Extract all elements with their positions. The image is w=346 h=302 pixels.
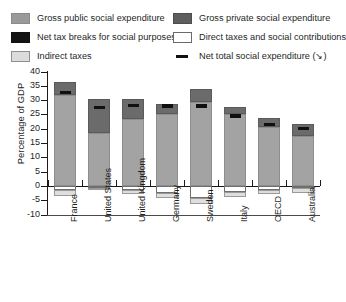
legend-label-taxbreak: Net tax breaks for social purposes — [37, 32, 176, 43]
y-tick — [41, 172, 47, 173]
bar-segment-private[interactable] — [292, 124, 314, 135]
y-tick-label: 15 — [0, 137, 40, 147]
net-total-marker — [128, 104, 139, 107]
x-tick — [116, 180, 117, 186]
x-tick — [286, 180, 287, 186]
y-tick-label: 30 — [0, 94, 40, 104]
y-tick-label: 35 — [0, 80, 40, 90]
legend-item-direct: Direct taxes and social contributions — [173, 29, 346, 45]
bar-segment-public[interactable] — [292, 136, 314, 186]
bar-segment-indirect-taxes[interactable] — [224, 192, 246, 197]
legend-row: Indirect taxes Net total social expendit… — [8, 48, 330, 64]
legend-item-nettotal: Net total social expenditure (↘) — [173, 48, 327, 64]
legend-item-public: Gross public social expenditure — [11, 10, 165, 26]
legend-label-public: Gross public social expenditure — [37, 13, 165, 24]
zero-baseline — [47, 186, 320, 187]
y-tick — [41, 100, 47, 101]
bar-segment-private[interactable] — [156, 104, 178, 115]
y-tick-label: -10 — [0, 209, 40, 219]
bar-segment-public[interactable] — [54, 95, 76, 186]
y-tick-label: 0 — [0, 180, 40, 190]
bar-segment-private[interactable] — [54, 82, 76, 95]
legend-label-private: Gross private social expenditure — [199, 13, 330, 24]
net-total-marker — [94, 106, 105, 109]
bar-segment-direct-taxes[interactable] — [224, 186, 246, 192]
legend-row: Gross public social expenditure Gross pr… — [8, 10, 330, 26]
y-tick — [41, 72, 47, 73]
bar-segment-private[interactable] — [258, 118, 280, 127]
legend-label-nettotal: Net total social expenditure (↘) — [199, 51, 327, 62]
y-tick — [41, 86, 47, 87]
bar-segment-private[interactable] — [88, 99, 110, 134]
y-tick — [41, 215, 47, 216]
net-total-marker — [298, 127, 309, 130]
legend-item-indirect: Indirect taxes — [11, 48, 92, 64]
y-tick — [41, 186, 47, 187]
x-tick — [320, 180, 321, 186]
axes: -10-50510152025303540 FranceUnited State… — [0, 66, 337, 302]
y-tick — [41, 200, 47, 201]
x-tick — [252, 180, 253, 186]
net-total-marker — [196, 104, 207, 107]
y-tick-label: 40 — [0, 66, 40, 76]
y-tick-label: 5 — [0, 166, 40, 176]
legend-row: Net tax breaks for social purposes Direc… — [8, 29, 330, 45]
bar-segment-indirect-taxes[interactable] — [258, 190, 280, 194]
bar-segment-private[interactable] — [122, 99, 144, 119]
y-tick — [41, 157, 47, 158]
y-tick — [41, 114, 47, 115]
legend-swatch-private-icon — [173, 13, 192, 24]
x-axis-category-label: Germany — [171, 185, 181, 222]
y-tick-label: -5 — [0, 194, 40, 204]
bar-segment-public[interactable] — [190, 102, 212, 186]
net-total-marker — [264, 123, 275, 126]
y-axis-line — [47, 71, 48, 215]
legend-label-indirect: Indirect taxes — [37, 51, 92, 62]
net-total-marker — [230, 114, 241, 117]
bar-segment-private[interactable] — [190, 89, 212, 102]
chart-legend: Gross public social expenditure Gross pr… — [8, 8, 330, 66]
x-axis-category-label: United Kingdom — [137, 158, 147, 222]
y-tick — [41, 129, 47, 130]
bar-segment-private[interactable] — [224, 107, 246, 115]
x-tick — [218, 180, 219, 186]
legend-item-taxbreak: Net tax breaks for social purposes — [11, 29, 176, 45]
bar-segment-public[interactable] — [224, 114, 246, 186]
net-total-marker — [162, 104, 173, 107]
y-tick-label: 20 — [0, 123, 40, 133]
x-tick — [150, 180, 151, 186]
legend-swatch-taxbreak-icon — [11, 32, 30, 43]
y-tick-label: 25 — [0, 108, 40, 118]
y-tick — [41, 143, 47, 144]
legend-item-private: Gross private social expenditure — [173, 10, 330, 26]
x-axis-category-label: Italy — [239, 205, 249, 222]
y-tick-label: 10 — [0, 151, 40, 161]
x-axis-category-label: Australia — [307, 187, 317, 222]
plot-area: Percentage of GDP -10-50510152025303540 … — [0, 66, 337, 302]
x-tick — [82, 180, 83, 186]
bar-segment-public[interactable] — [156, 114, 178, 186]
net-total-marker — [60, 91, 71, 94]
legend-swatch-indirect-icon — [11, 51, 30, 62]
legend-swatch-public-icon — [11, 13, 30, 24]
x-tick — [48, 180, 49, 186]
legend-swatch-direct-icon — [173, 32, 192, 43]
x-axis-category-label: OECD — [273, 196, 283, 222]
legend-dash-nettotal-icon — [173, 51, 192, 62]
bar-segment-public[interactable] — [258, 127, 280, 186]
x-axis-category-label: France — [69, 194, 79, 222]
x-tick — [184, 180, 185, 186]
x-axis-category-label: Sweden — [205, 189, 215, 222]
legend-label-direct: Direct taxes and social contributions — [199, 32, 346, 43]
x-axis-category-label: United States — [103, 168, 113, 222]
